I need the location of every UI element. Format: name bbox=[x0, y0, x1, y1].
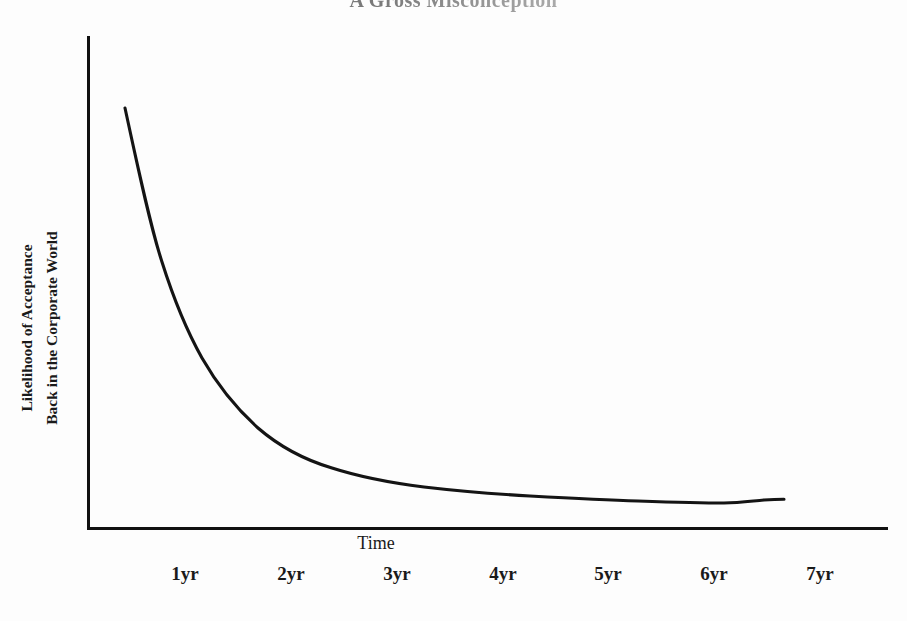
x-tick-label-1yr: 1yr bbox=[145, 563, 225, 585]
chart-figure: A Gross Misconception Likelihood of Acce… bbox=[0, 0, 907, 621]
x-tick-label-2yr: 2yr bbox=[251, 563, 331, 585]
decay-curve bbox=[125, 108, 784, 503]
x-tick-label-4yr: 4yr bbox=[463, 563, 543, 585]
x-tick-label-7yr: 7yr bbox=[780, 563, 860, 585]
plot-area bbox=[0, 0, 907, 621]
y-axis-label-line-2: Back in the Corporate World bbox=[39, 168, 64, 488]
x-tick-label-6yr: 6yr bbox=[674, 563, 754, 585]
x-tick-label-3yr: 3yr bbox=[357, 563, 437, 585]
x-tick-label-5yr: 5yr bbox=[568, 563, 648, 585]
x-axis-title: Time bbox=[316, 533, 436, 554]
y-axis-label: Likelihood of Acceptance Back in the Cor… bbox=[14, 0, 64, 168]
y-axis-label-line-1: Likelihood of Acceptance bbox=[14, 168, 39, 488]
